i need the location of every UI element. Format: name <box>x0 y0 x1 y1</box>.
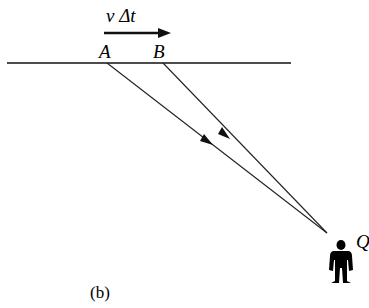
ray-from-b <box>163 63 327 233</box>
point-b-label: B <box>153 42 165 61</box>
point-a-label: A <box>99 42 111 61</box>
ray-a-arrowhead-icon <box>200 134 213 145</box>
panel-label: (b) <box>90 284 110 301</box>
diagram-svg <box>0 0 369 308</box>
motion-arrowhead-icon <box>158 28 171 38</box>
diagram-canvas: v Δt A B Q (b) <box>0 0 369 308</box>
person-icon <box>329 240 353 283</box>
ray-b-arrowhead-icon <box>218 127 230 139</box>
ray-from-a <box>107 63 327 233</box>
velocity-displacement-label: v Δt <box>106 6 136 25</box>
observer-label: Q <box>356 232 369 251</box>
